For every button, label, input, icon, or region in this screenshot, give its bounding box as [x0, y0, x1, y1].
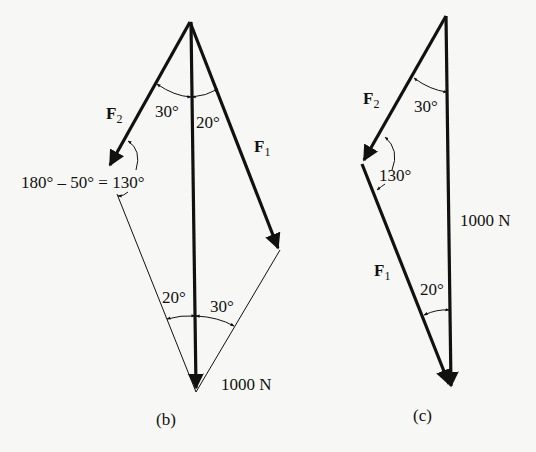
angle-arc-130-b-lower — [118, 192, 128, 196]
figure-b — [110, 22, 280, 392]
vector-f2-c — [364, 16, 446, 160]
angle-arc-30-top-b — [157, 84, 191, 97]
vector-resultant-b — [191, 22, 196, 388]
label-f2-b: F2 — [106, 105, 122, 122]
angle-arc-20-bottom-b — [167, 316, 195, 319]
angle-equation-b: 180° – 50° = 130° — [21, 174, 144, 191]
label-resultant-c: 1000 N — [460, 212, 511, 229]
angle-arc-20-top-b — [192, 89, 218, 97]
angle-label-30-top-b: 30° — [155, 103, 179, 120]
vector-resultant-c — [446, 16, 451, 386]
label-f1-c: F1 — [374, 262, 390, 279]
angle-label-130-c: 130° — [379, 167, 411, 184]
vector-f1-b — [190, 22, 278, 248]
caption-c: (c) — [413, 407, 432, 424]
angle-label-30-bottom-b: 30° — [210, 298, 234, 315]
figure-c — [362, 16, 451, 386]
angle-arc-130-b — [128, 141, 138, 170]
angle-label-30-c: 30° — [414, 98, 438, 115]
vector-f2-b — [110, 22, 190, 165]
angle-label-20-bottom-b: 20° — [162, 289, 186, 306]
label-f1-b: F1 — [254, 138, 270, 155]
caption-b: (b) — [156, 411, 176, 428]
angle-arc-20-c — [424, 310, 449, 315]
angle-label-20-c: 20° — [420, 281, 444, 298]
angle-arc-30-c — [414, 78, 447, 92]
parallelogram-side-right — [196, 250, 280, 392]
label-resultant-b: 1000 N — [221, 376, 272, 393]
angle-arc-30-bottom-b — [196, 316, 234, 326]
angle-label-20-top-b: 20° — [196, 114, 220, 131]
label-f2-c: F2 — [363, 90, 379, 107]
